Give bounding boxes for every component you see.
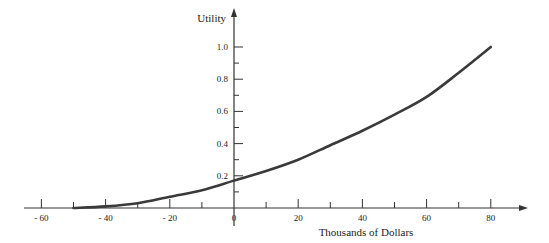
x-tick-label: 0 [232,213,237,223]
x-tick-label: - 40 [98,213,113,223]
y-axis-ticks: 0.20.40.60.81.0 [217,42,243,192]
utility-curve [74,47,491,208]
y-tick-label: 1.0 [217,42,229,52]
y-tick-label: 0.8 [217,74,229,84]
y-axis [231,8,237,226]
x-axis-arrow-icon [519,205,528,211]
y-axis-title: Utility [197,12,226,24]
x-axis-title: Thousands of Dollars [319,226,414,238]
y-tick-label: 0.6 [217,106,229,116]
x-tick-label: 40 [358,213,368,223]
x-axis-ticks: - 60- 40- 20020406080 [34,199,496,223]
x-tick-label: 60 [422,213,432,223]
utility-chart: - 60- 40- 20020406080 0.20.40.60.81.0 Ut… [0,0,549,243]
y-tick-label: 0.2 [217,171,228,181]
x-tick-label: - 60 [34,213,49,223]
x-tick-label: - 20 [163,213,178,223]
x-tick-label: 20 [294,213,304,223]
y-tick-label: 0.4 [217,139,229,149]
x-tick-label: 80 [486,213,496,223]
y-axis-arrow-icon [231,8,237,17]
